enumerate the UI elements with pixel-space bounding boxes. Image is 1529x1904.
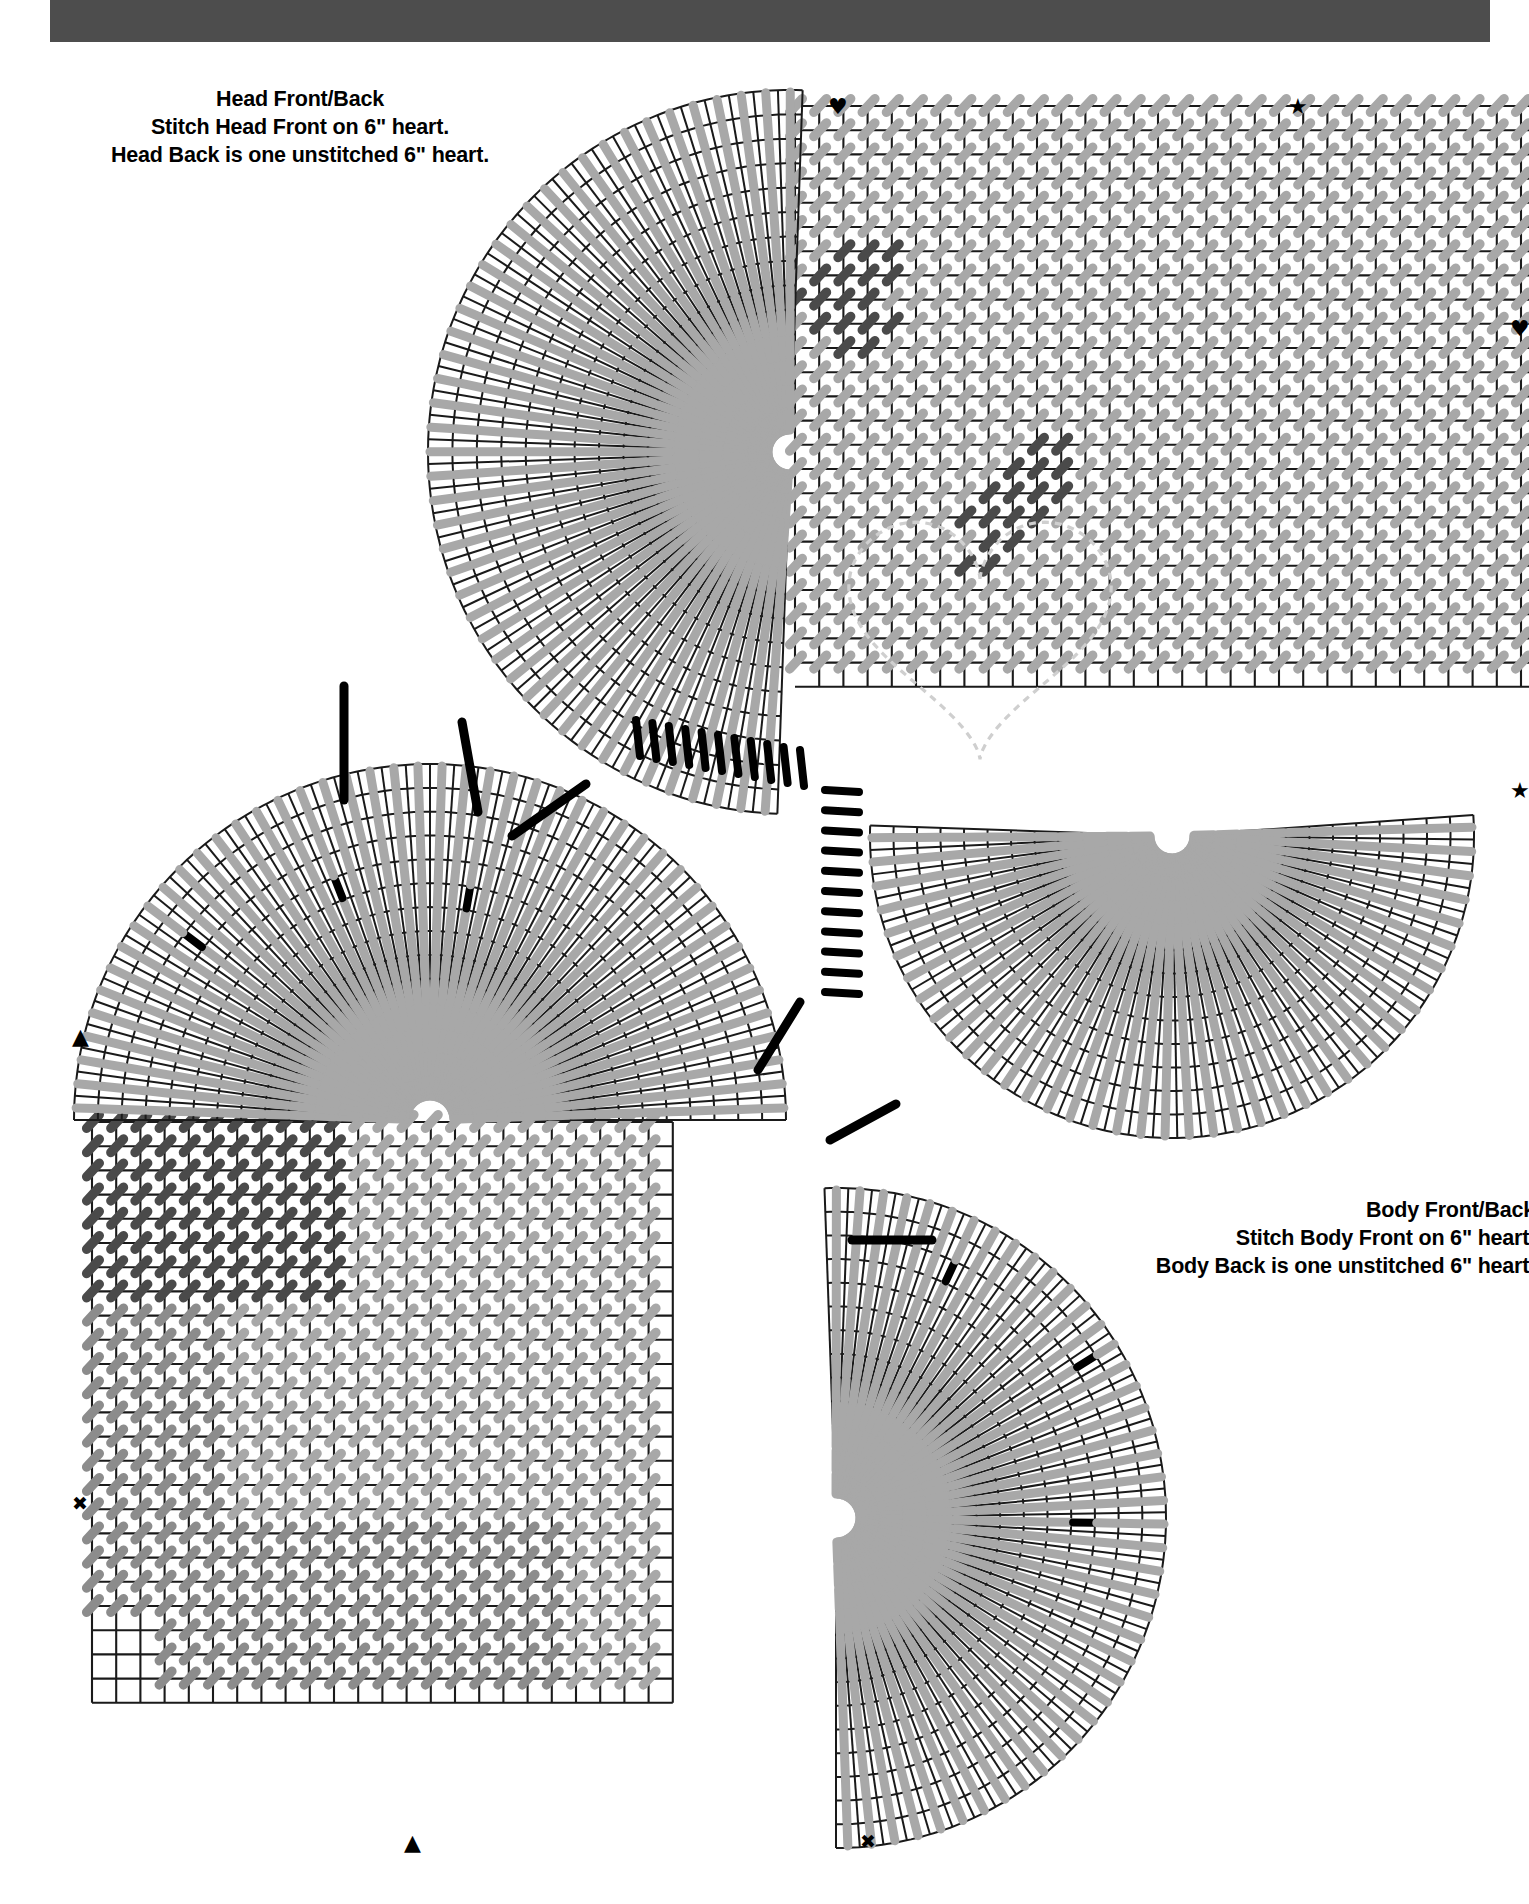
marker-heart-head-top: ♥: [828, 96, 848, 118]
stitch-chart-svg: [0, 0, 1529, 1904]
caption-line: Head Front/Back: [110, 86, 490, 114]
caption-line: Body Back is one unstitched 6" heart.: [1156, 1253, 1529, 1281]
head-grid-layer: [790, 99, 1529, 687]
chart-page: Head Front/Back Stitch Head Front on 6" …: [0, 0, 1529, 1904]
caption-line: Head Back is one unstitched 6" heart.: [110, 142, 490, 170]
caption-line: Stitch Body Front on 6" heart.: [1156, 1225, 1529, 1253]
marker-star-head-right: ★: [1510, 780, 1529, 802]
head-front-back-caption: Head Front/Back Stitch Head Front on 6" …: [110, 86, 490, 170]
marker-heart-head-right: ♥: [1510, 318, 1529, 340]
body-grid-layer: [87, 1115, 673, 1703]
marker-triangle-body-bottom: ▲: [404, 1832, 421, 1854]
marker-triangle-body-left: ▲: [72, 1026, 89, 1048]
marker-asterisk-body-left: ✖: [72, 1494, 88, 1513]
caption-line: Body Front/Back: [1156, 1197, 1529, 1225]
marker-star-head-top: ★: [1288, 96, 1308, 118]
body-front-back-caption: Body Front/Back Stitch Body Front on 6" …: [1156, 1197, 1529, 1281]
marker-asterisk-body-bottom: ✖: [860, 1832, 876, 1851]
caption-line: Stitch Head Front on 6" heart.: [110, 114, 490, 142]
